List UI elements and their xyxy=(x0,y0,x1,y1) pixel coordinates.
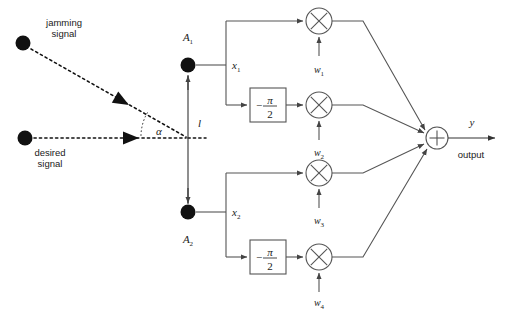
multiplier-4 xyxy=(306,244,332,292)
ps-bottom-numerator: π xyxy=(267,246,273,258)
ps-top-denominator: 2 xyxy=(267,108,273,120)
output-caption-label: output xyxy=(458,149,485,160)
desired-ray-arrowhead xyxy=(123,132,139,145)
antenna-label-A1: A1 xyxy=(182,31,194,46)
baseline-length-label: l xyxy=(198,117,201,129)
output-symbol-label: y xyxy=(469,116,475,128)
phase-shifter-bottom: − π 2 xyxy=(250,240,286,274)
ps-top-numerator: π xyxy=(267,94,273,106)
alpha-arc xyxy=(141,113,148,139)
antenna-label-A2: A2 xyxy=(182,233,194,248)
figure-root: jamming signal desired signal α l A1 A2 … xyxy=(0,0,507,319)
weight-label-w2: w2 xyxy=(314,147,325,161)
multiplier-1 xyxy=(306,8,332,56)
desired-source-dot xyxy=(18,131,33,146)
jamming-signal-label-line2: signal xyxy=(52,28,77,39)
antenna-dot-A1 xyxy=(181,58,196,73)
phase-shifter-top: − π 2 xyxy=(250,88,286,122)
ps-top-sign: − xyxy=(256,99,262,111)
multiplier-3 xyxy=(306,160,332,208)
ps-bottom-denominator: 2 xyxy=(267,260,273,272)
jamming-signal-label-line1: jamming xyxy=(45,17,82,28)
antenna-element-A2 xyxy=(181,205,227,220)
sum-input-wire-2 xyxy=(332,105,424,133)
signal-label-x2: x2 xyxy=(231,206,241,221)
sum-input-wire-3 xyxy=(332,144,424,173)
weight-label-w1: w1 xyxy=(314,64,325,78)
summing-junction xyxy=(426,127,448,149)
desired-signal-label-line2: signal xyxy=(38,158,63,169)
jamming-ray xyxy=(31,49,186,137)
desired-signal-label-line1: desired xyxy=(34,147,65,158)
weight-label-w4: w4 xyxy=(314,297,325,311)
beamformer-diagram: jamming signal desired signal α l A1 A2 … xyxy=(0,0,507,319)
summing-input-wires xyxy=(332,21,427,257)
jamming-ray-arrowhead xyxy=(112,91,132,110)
ps-bottom-sign: − xyxy=(256,251,262,263)
sum-input-wire-1 xyxy=(332,21,425,130)
antenna-dot-A2 xyxy=(181,205,196,220)
propagation-geometry xyxy=(16,36,207,205)
jamming-source-dot xyxy=(16,36,31,51)
alpha-label: α xyxy=(156,125,162,137)
signal-label-x1: x1 xyxy=(231,59,241,74)
antenna-element-A1 xyxy=(181,58,227,73)
weight-label-w3: w3 xyxy=(314,215,325,229)
multiplier-2 xyxy=(306,92,332,140)
